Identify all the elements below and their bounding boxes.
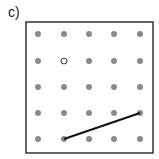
grid-dot bbox=[111, 110, 117, 116]
open-dot bbox=[61, 58, 67, 64]
grid-dot bbox=[137, 84, 143, 90]
grid-dot bbox=[86, 31, 92, 37]
grid-dot bbox=[35, 31, 41, 37]
grid-dot bbox=[111, 31, 117, 37]
grid-dot bbox=[35, 58, 41, 64]
dot-grid bbox=[35, 31, 143, 142]
grid-dot bbox=[86, 84, 92, 90]
geoboard-diagram bbox=[0, 0, 159, 159]
grid-dot bbox=[86, 58, 92, 64]
grid-dot bbox=[137, 58, 143, 64]
grid-dot bbox=[35, 136, 41, 142]
grid-dot bbox=[86, 110, 92, 116]
grid-dot bbox=[111, 84, 117, 90]
grid-dot bbox=[61, 31, 67, 37]
grid-dot bbox=[61, 110, 67, 116]
grid-dot bbox=[35, 110, 41, 116]
grid-dot bbox=[137, 31, 143, 37]
grid-dot bbox=[86, 136, 92, 142]
grid-dot bbox=[35, 84, 41, 90]
grid-dot bbox=[137, 136, 143, 142]
grid-dot bbox=[111, 58, 117, 64]
grid-dot bbox=[61, 84, 67, 90]
grid-dot bbox=[111, 136, 117, 142]
line-segment bbox=[64, 113, 140, 139]
